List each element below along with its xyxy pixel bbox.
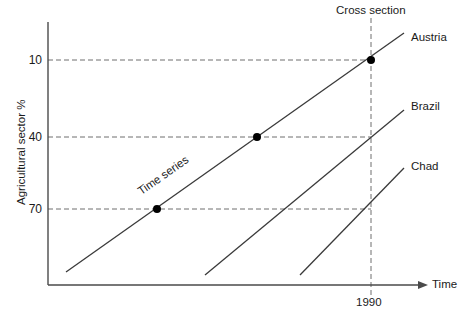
chart-canvas <box>0 0 463 320</box>
y-tick-label-10: 10 <box>22 54 42 66</box>
x-axis-title: Time <box>432 279 457 291</box>
data-point-marker <box>153 205 161 213</box>
data-point-marker <box>367 56 375 64</box>
series-label-brazil: Brazil <box>411 101 440 113</box>
series-label-chad: Chad <box>411 161 439 173</box>
x-tick-label-1990: 1990 <box>356 297 382 309</box>
series-line-brazil <box>205 110 404 275</box>
series-label-austria: Austria <box>411 32 447 44</box>
data-point-marker <box>253 133 261 141</box>
cross-section-label: Cross section <box>336 5 406 17</box>
y-axis-title: Agricultural sector % <box>16 100 28 205</box>
chart-figure: 10 40 70 Agricultural sector % 1990 Time… <box>0 0 463 320</box>
x-axis-arrowhead <box>418 281 428 289</box>
